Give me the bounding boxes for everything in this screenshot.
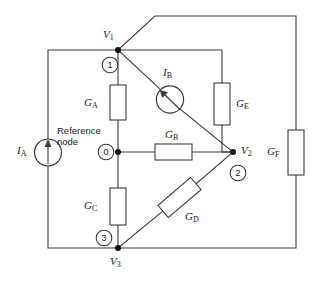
resistor-gd-label: GD <box>185 210 199 223</box>
node-voltage-v1-subscript: 1 <box>110 33 114 42</box>
resistor-gc <box>110 188 126 225</box>
node-number-2: 2 <box>230 165 246 181</box>
resistor-gc-symbol: G <box>84 199 92 211</box>
current-source-ib-subscript: B <box>167 71 172 80</box>
resistor-gd-subscript: D <box>193 215 199 224</box>
resistor-gb <box>155 144 192 160</box>
resistor-ga <box>110 85 126 120</box>
current-source-ib <box>156 86 183 113</box>
node-number-3: 3 <box>96 230 112 246</box>
node-number-1: 1 <box>102 57 118 73</box>
resistor-gc-subscript: C <box>92 204 97 213</box>
node-voltage-v1-symbol: V <box>103 28 110 40</box>
wire-bottom-right-loop <box>118 175 296 248</box>
node-voltage-label-v2: V2 <box>241 144 252 157</box>
node-voltage-v2-symbol: V <box>241 144 248 156</box>
node-dot-reference <box>115 149 121 155</box>
resistor-ga-symbol: G <box>84 96 92 108</box>
reference-node-annotation: Reference node <box>57 126 101 148</box>
node-voltage-v3-symbol: V <box>110 255 117 267</box>
resistor-gb-label: GB <box>165 128 178 141</box>
node-dot-v1 <box>115 47 121 53</box>
circuit-schematic-svg <box>0 0 315 281</box>
resistor-gf-subscript: F <box>275 150 279 159</box>
resistor-gf-label: GF <box>267 145 279 158</box>
node-dot-v3 <box>115 245 121 251</box>
reference-node-line-2: node <box>57 137 101 148</box>
resistor-ge-symbol: G <box>236 97 244 109</box>
resistor-gf-symbol: G <box>267 145 275 157</box>
node-number-2-text: 2 <box>235 168 240 178</box>
current-source-ia-label: IA <box>17 144 26 157</box>
resistor-ga-subscript: A <box>92 101 98 110</box>
resistor-gd-symbol: G <box>185 210 193 222</box>
node-dot-v2 <box>230 149 236 155</box>
resistor-ge <box>214 83 230 125</box>
resistor-ga-label: GA <box>84 96 98 109</box>
resistor-gb-symbol: G <box>165 128 173 140</box>
node-voltage-v3-subscript: 3 <box>117 260 121 269</box>
resistor-gf <box>288 130 304 175</box>
node-number-0-text: 0 <box>103 147 108 157</box>
node-number-3-text: 3 <box>101 233 106 243</box>
resistor-gc-label: GC <box>84 199 97 212</box>
node-number-1-text: 1 <box>107 60 112 70</box>
circuit-diagram: 1 0 2 3 V1 V2 V3 GA GB GC GD GE GF IA IB <box>0 0 315 281</box>
current-source-ia-subscript: A <box>21 149 27 158</box>
resistor-ge-subscript: E <box>244 102 249 111</box>
node-voltage-label-v3: V3 <box>110 255 121 268</box>
node-voltage-v2-subscript: 2 <box>248 149 252 158</box>
resistor-ge-label: GE <box>236 97 249 110</box>
current-source-ib-label: IB <box>163 66 172 79</box>
resistor-gb-subscript: B <box>173 133 178 142</box>
node-voltage-label-v1: V1 <box>103 28 114 41</box>
wire-top-right-loop <box>118 16 296 130</box>
